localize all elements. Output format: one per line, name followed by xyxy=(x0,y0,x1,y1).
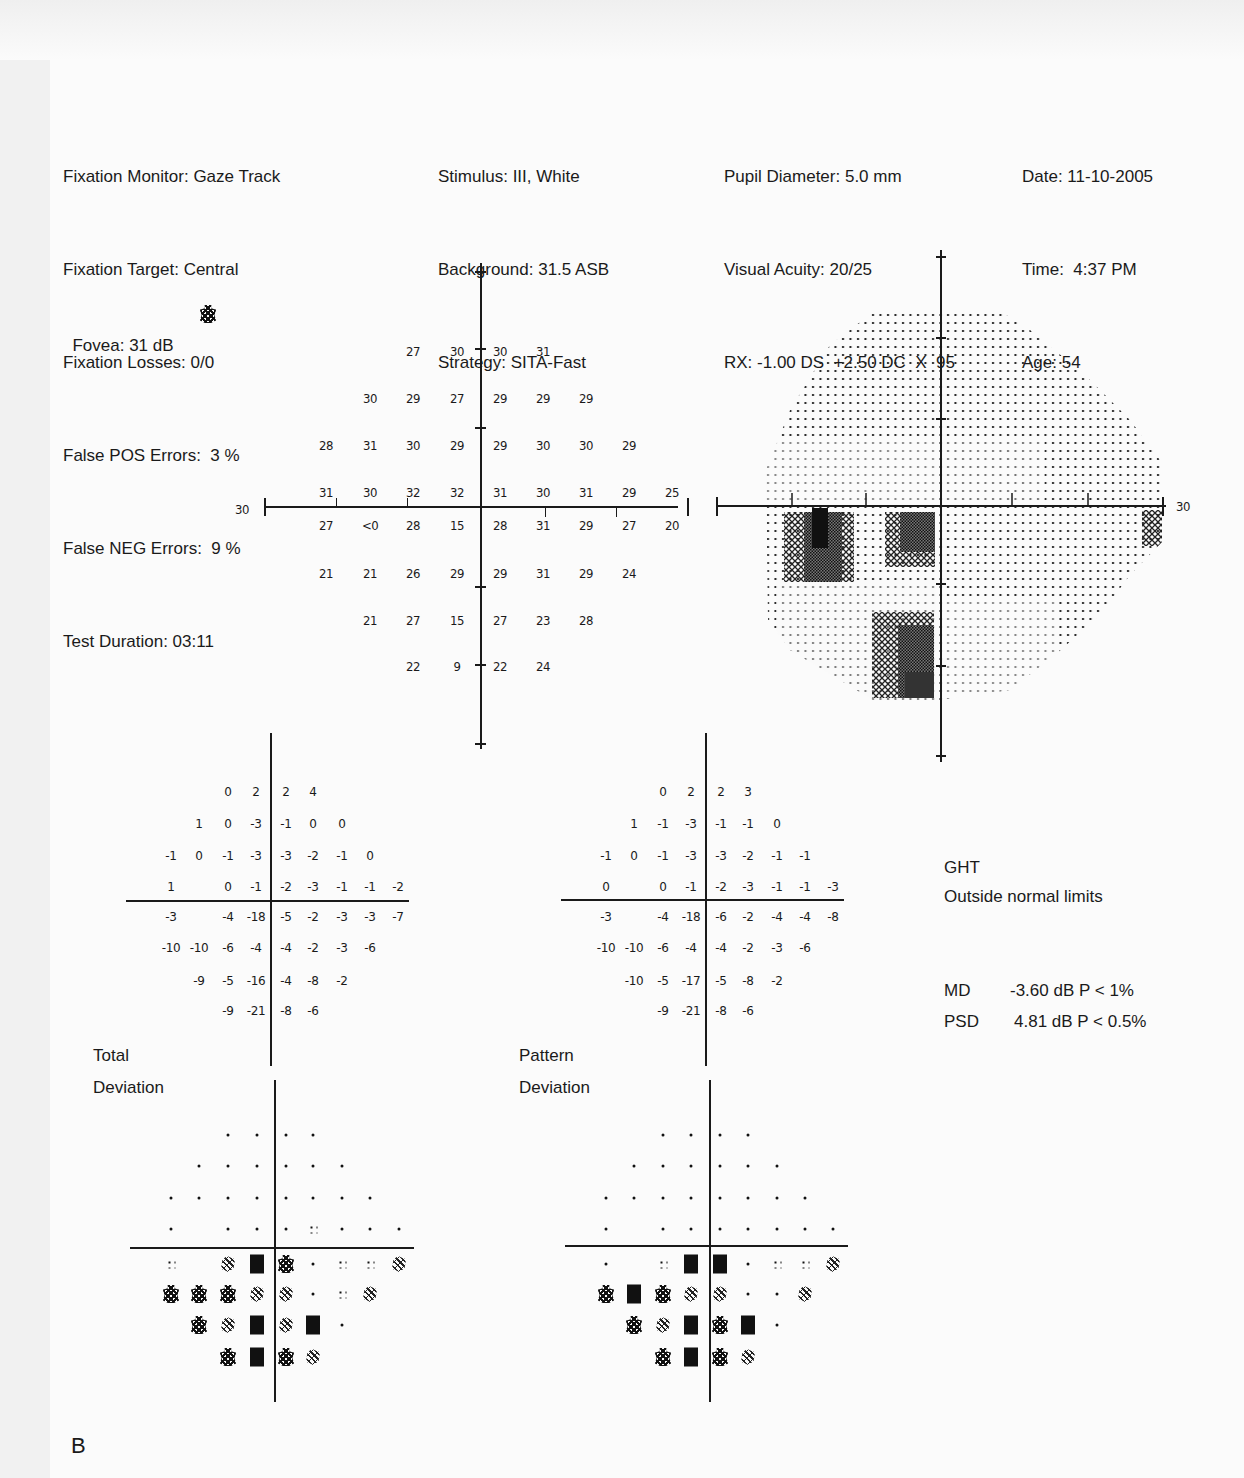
field-value: 3 xyxy=(744,785,751,799)
field-value: -8 xyxy=(742,974,753,988)
normal-dot-icon xyxy=(804,1228,807,1231)
field-value: -18 xyxy=(247,910,266,924)
field-value: -1 xyxy=(771,849,782,863)
normal-dot-icon xyxy=(776,1293,779,1296)
field-value: -1 xyxy=(165,849,176,863)
field-value: -3 xyxy=(336,910,347,924)
field-value: -4 xyxy=(250,941,261,955)
normal-dot-icon xyxy=(776,1165,779,1168)
normal-dot-icon xyxy=(170,1197,173,1200)
p5-percent-icon xyxy=(309,1225,318,1234)
field-value: -1 xyxy=(222,849,233,863)
normal-dot-icon xyxy=(633,1197,636,1200)
p05-percent-icon xyxy=(684,1316,698,1335)
field-value: -5 xyxy=(280,910,291,924)
field-value: -2 xyxy=(742,910,753,924)
p2-percent-icon xyxy=(798,1286,812,1302)
field-value: -2 xyxy=(280,880,291,894)
field-value: -1 xyxy=(600,849,611,863)
normal-dot-icon xyxy=(312,1134,315,1137)
field-value: 1 xyxy=(167,880,174,894)
field-value: -3 xyxy=(307,880,318,894)
p2-percent-icon xyxy=(826,1256,840,1272)
normal-dot-icon xyxy=(633,1165,636,1168)
p1-percent-icon xyxy=(163,1285,179,1303)
field-value: -4 xyxy=(715,941,726,955)
field-value: -4 xyxy=(685,941,696,955)
field-value: -9 xyxy=(657,1004,668,1018)
field-value: -1 xyxy=(280,817,291,831)
p1-percent-icon xyxy=(712,1316,728,1334)
field-value: 0 xyxy=(338,817,345,831)
field-value: -1 xyxy=(657,849,668,863)
field-value: -6 xyxy=(799,941,810,955)
field-value: -4 xyxy=(657,910,668,924)
td-v-axis xyxy=(270,733,272,1066)
p5-percent-icon xyxy=(338,1290,347,1299)
field-value: -3 xyxy=(600,910,611,924)
field-value: -5 xyxy=(715,974,726,988)
normal-dot-icon xyxy=(662,1165,665,1168)
normal-dot-icon xyxy=(690,1134,693,1137)
p2-percent-icon xyxy=(741,1349,755,1365)
field-value: -8 xyxy=(827,910,838,924)
normal-dot-icon xyxy=(198,1197,201,1200)
field-value: -3 xyxy=(742,880,753,894)
p1-percent-icon xyxy=(278,1255,294,1273)
field-value: 4 xyxy=(309,785,316,799)
normal-dot-icon xyxy=(285,1134,288,1137)
field-value: -1 xyxy=(336,849,347,863)
field-value: -4 xyxy=(280,974,291,988)
field-value: -5 xyxy=(657,974,668,988)
field-value: -2 xyxy=(336,974,347,988)
field-value: -10 xyxy=(597,941,616,955)
p1-percent-icon xyxy=(191,1285,207,1303)
grayscale-map xyxy=(0,0,1244,800)
field-value: -8 xyxy=(280,1004,291,1018)
pattern-deviation-label-1: Pattern xyxy=(519,1046,574,1066)
field-value: -2 xyxy=(307,910,318,924)
field-value: -5 xyxy=(222,974,233,988)
field-value: -8 xyxy=(307,974,318,988)
normal-dot-icon xyxy=(227,1134,230,1137)
normal-dot-icon xyxy=(312,1197,315,1200)
field-value: 0 xyxy=(309,817,316,831)
field-value: -6 xyxy=(742,1004,753,1018)
normal-dot-icon xyxy=(747,1263,750,1266)
p05-percent-icon xyxy=(250,1316,264,1335)
ght-result: Outside normal limits xyxy=(944,887,1103,907)
field-value: -9 xyxy=(193,974,204,988)
normal-dot-icon xyxy=(341,1165,344,1168)
p1-percent-icon xyxy=(220,1285,236,1303)
pdp-h-axis xyxy=(565,1245,848,1247)
normal-dot-icon xyxy=(690,1228,693,1231)
p05-percent-icon xyxy=(684,1255,698,1274)
p1-percent-icon xyxy=(712,1348,728,1366)
field-value: 2 xyxy=(687,785,694,799)
field-value: -3 xyxy=(336,941,347,955)
normal-dot-icon xyxy=(398,1228,401,1231)
p2-percent-icon xyxy=(363,1286,377,1302)
normal-dot-icon xyxy=(747,1228,750,1231)
field-value: 0 xyxy=(224,817,231,831)
normal-dot-icon xyxy=(369,1228,372,1231)
p05-percent-icon xyxy=(684,1348,698,1367)
field-value: -2 xyxy=(771,974,782,988)
field-value: -2 xyxy=(715,880,726,894)
normal-dot-icon xyxy=(719,1134,722,1137)
field-value: -10 xyxy=(625,974,644,988)
normal-dot-icon xyxy=(198,1165,201,1168)
normal-dot-icon xyxy=(747,1134,750,1137)
field-value: 0 xyxy=(224,880,231,894)
normal-dot-icon xyxy=(662,1197,665,1200)
pdp-v-axis xyxy=(709,1080,711,1402)
field-value: 0 xyxy=(366,849,373,863)
normal-dot-icon xyxy=(170,1228,173,1231)
field-value: -2 xyxy=(307,849,318,863)
field-value: -3 xyxy=(827,880,838,894)
normal-dot-icon xyxy=(690,1165,693,1168)
p1-percent-icon xyxy=(278,1348,294,1366)
field-value: -2 xyxy=(307,941,318,955)
field-value: -3 xyxy=(715,849,726,863)
p2-percent-icon xyxy=(279,1286,293,1302)
